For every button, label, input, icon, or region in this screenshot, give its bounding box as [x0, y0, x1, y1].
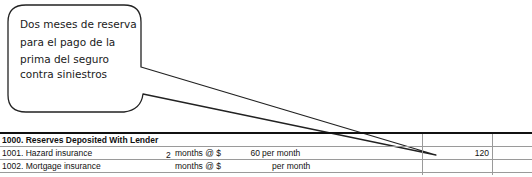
divider	[0, 172, 532, 173]
callout-line: contra siniestros	[20, 66, 140, 84]
column-divider	[492, 134, 493, 175]
callout-line: para el pago de la	[20, 34, 140, 52]
column-divider	[422, 134, 423, 175]
callout-text: Dos meses de reserva para el pago de la …	[20, 16, 140, 83]
callout-line: Dos meses de reserva	[20, 16, 140, 34]
